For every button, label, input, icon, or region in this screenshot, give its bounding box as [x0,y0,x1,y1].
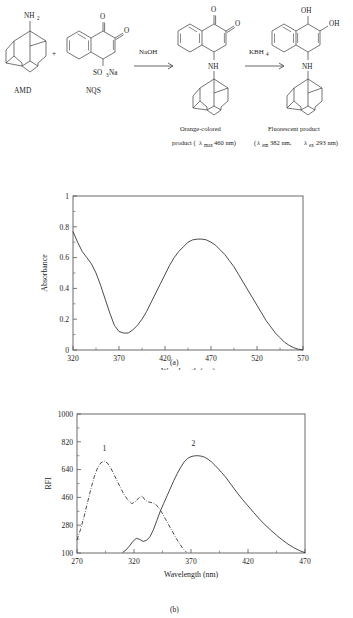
nqs-na-label: Na [109,69,118,77]
y-tick-label: 820 [62,438,74,447]
data-curve-1 [73,231,303,350]
panel-b-caption: (b) [170,605,179,614]
chart-panel-a: 32037042047052057000.20.40.60.81Waveleng… [0,175,353,370]
product2-caption-pre: ( [254,139,256,147]
plus-sign: + [52,50,56,58]
curve-label-2: 2 [191,439,195,448]
figure-page: NH 2 AMD + [0,0,353,618]
reaction-arrow-kbh4: KBH 4 [245,48,284,69]
plot-frame [73,196,303,350]
y-axis-title: Absorbance [40,254,49,292]
reaction-arrow-naoh: NaOH [134,48,173,69]
product2-lambda1-sub: em [262,142,268,148]
nqs-so3-label: SO [93,69,102,77]
panel-a-caption: (a) [170,358,179,367]
product2-oh-2: OH [329,20,339,28]
x-tick-label: 470 [299,557,311,566]
y-tick-label: 100 [62,549,74,558]
y-tick-label: 640 [62,465,74,474]
x-tick-label: 370 [113,354,125,363]
product2-nh-label: NH [302,63,312,71]
y-tick-label: 0.4 [60,284,70,293]
amd-nh2-sub: 2 [37,15,40,21]
product1-lambda-sub: max [204,142,213,148]
product1-oxygen-1: O [211,6,216,14]
product1-caption-pre: product ( [172,139,196,147]
y-tick-label: 1000 [58,410,73,419]
x-tick-label: 520 [251,354,263,363]
nqs-oxygen-2: O [124,27,129,35]
product1-caption-line2: product ( λ max 460 nm) [172,139,236,148]
x-tick-label: 470 [205,354,217,363]
amd-nh2-label: NH [24,12,34,20]
product1-nh-label: NH [208,63,218,71]
x-tick-label: 270 [71,557,83,566]
reagent-naoh-label: NaOH [139,48,157,56]
reagent-kbh4-label: KBH [249,48,264,56]
product1-caption-line1: Orange-colored [180,125,222,132]
product1-lambda-symbol: λ [199,139,203,146]
product2-caption-line2: ( λ em 382 nm, λ ex 293 nm) [254,139,338,148]
product2-lambda1-symbol: λ [257,139,261,146]
y-tick-label: 280 [62,521,74,530]
x-axis-title: Wavelength (nm) [161,367,216,370]
reaction-scheme: NH 2 AMD + [0,0,353,162]
y-tick-label: 460 [62,493,74,502]
structure-nqs: O O SO 3 Na NQS [67,13,129,95]
product2-lambda2-symbol: λ [304,139,308,146]
y-tick-label: 0.6 [60,253,70,262]
structure-amd: NH 2 AMD [6,12,46,95]
product2-caption-post: 293 nm) [316,139,338,147]
y-tick-label: 0 [65,346,69,355]
y-tick-label: 1 [65,192,69,201]
x-tick-label: 320 [128,557,140,566]
structure-orange-product: O O NH Orange-colored product ( [172,6,240,148]
product1-oxygen-2: O [235,20,240,28]
x-tick-label: 420 [242,557,254,566]
x-tick-label: 570 [297,354,309,363]
x-tick-label: 370 [185,557,197,566]
x-tick-label: 320 [67,354,79,363]
product2-lambda2-sub: ex [309,142,314,148]
product2-caption-mid: 382 nm, [270,139,292,146]
x-axis-title: Wavelength (nm) [164,570,219,579]
data-curve-1 [77,461,186,552]
nqs-oxygen-1: O [100,13,105,21]
structure-fluorescent-product: OH OH NH Fluorescent product ( λ [254,7,339,148]
reagent-kbh4-sub: 4 [266,51,269,57]
chart-panel-b: 2703203704204701002804606408201000Wavele… [0,400,353,618]
product1-caption-post: 460 nm) [214,139,236,147]
y-tick-label: 0.2 [60,315,70,324]
nqs-name-label: NQS [86,86,101,95]
plot-frame [77,414,305,553]
product2-oh-1: OH [301,7,311,15]
product2-caption-line1: Fluorescent product [268,125,320,132]
y-axis-title: RFI [44,477,53,490]
y-tick-label: 0.8 [60,223,70,232]
curve-label-1: 1 [102,444,106,453]
data-curve-2 [123,456,305,553]
amd-name-label: AMD [14,86,32,95]
